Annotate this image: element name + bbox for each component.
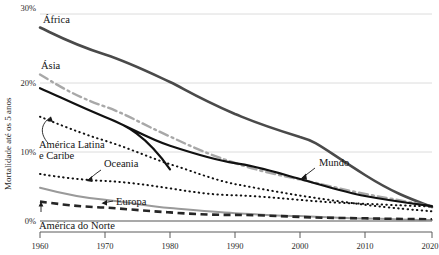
x-axis-tick-labels: 1960 1970 1980 1990 2000 2010 2020	[32, 241, 439, 251]
series-label-mundo: Mundo	[319, 157, 349, 168]
leader-arrowhead-mundo	[301, 174, 308, 180]
x-tick-label-1980: 1980	[162, 241, 179, 251]
y-tick-20: 20%	[20, 78, 36, 88]
y-tick-0: 0%	[25, 216, 36, 226]
x-tick-label-1970: 1970	[97, 241, 114, 251]
x-tick-label-1990: 1990	[227, 241, 244, 251]
series-label-america-do-norte: América do Norte	[39, 220, 115, 231]
x-tick-label-2000: 2000	[292, 241, 309, 251]
series-label-europa: Europa	[116, 196, 147, 207]
y-tick-30: 30%	[20, 3, 36, 13]
series-line-africa	[40, 28, 432, 208]
x-tick-label-2010: 2010	[357, 241, 374, 251]
gridlines	[40, 14, 432, 152]
x-tick-label-1960: 1960	[32, 241, 49, 251]
series-label-africa: África	[43, 14, 70, 25]
y-axis-ticks: 30% 20% 10% 0%	[20, 3, 36, 226]
leader-arrowhead-europa	[102, 200, 108, 205]
x-tick-label-2020: 2020	[422, 241, 439, 251]
chart-container: 30% 20% 10% 0% Mortalidade até os 5 anos	[0, 0, 439, 255]
mortality-line-chart: 30% 20% 10% 0% Mortalidade até os 5 anos	[0, 0, 439, 255]
x-axis-ticks	[40, 232, 432, 238]
series-label-america-latina-line1: América Latina	[39, 139, 105, 150]
y-tick-10: 10%	[20, 147, 36, 157]
series-label-america-latina-line2: e Caribe	[39, 150, 75, 161]
y-axis-title: Mortalidade até os 5 anos	[3, 97, 13, 190]
series-label-asia: Ásia	[41, 60, 61, 71]
series-label-oceania: Oceania	[104, 158, 139, 169]
